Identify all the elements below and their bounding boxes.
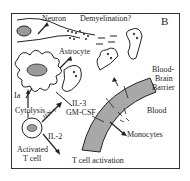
- il2-label: IL-2: [48, 133, 62, 141]
- gmcsf-label: GM-CSF: [66, 109, 96, 117]
- blood-label: Blood: [147, 107, 167, 115]
- monocytes-label: Monocytes: [127, 131, 163, 139]
- tcell-activation-label: T cell activation: [72, 157, 124, 165]
- neuron-label: Neuron: [42, 15, 66, 23]
- astrocyte-label: Astrocyte: [59, 48, 90, 56]
- bbb-label-1: Blood-: [152, 66, 174, 74]
- bbb-label-2: Brain: [155, 75, 173, 83]
- il3-label: IL-3: [72, 100, 86, 108]
- tcell-label: T cell: [23, 155, 41, 163]
- cytolysis-label: Cytolysis: [15, 107, 45, 115]
- demyelination-label: Demyelination?: [80, 15, 131, 23]
- panel-label: B: [161, 16, 168, 27]
- activated-label: Activated: [17, 146, 48, 154]
- bbb-label-3: Barrier: [152, 84, 175, 92]
- ia-label: Ia: [14, 92, 20, 100]
